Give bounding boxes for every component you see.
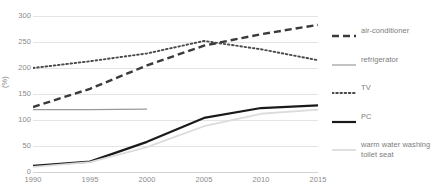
legend-item[interactable]: air-conditioner (332, 26, 437, 37)
x-tick-label: 1995 (81, 176, 98, 184)
y-axis-ticks: 300250200150100500 (0, 0, 31, 196)
legend-item[interactable]: TV (332, 83, 437, 94)
legend-item[interactable]: refrigerator (332, 55, 437, 66)
legend-line-icon (332, 113, 356, 123)
series-line (33, 110, 318, 167)
legend-label: refrigerator (361, 55, 398, 65)
x-axis-ticks: 199019952000200520102015 (33, 176, 318, 190)
legend-line-icon (332, 27, 356, 37)
legend-label: PC (361, 112, 372, 122)
x-tick-label: 2000 (138, 176, 155, 184)
legend-item[interactable]: warm water washing toilet seat (332, 140, 437, 160)
x-tick-label: 2010 (252, 176, 269, 184)
x-tick-label: 2015 (309, 176, 326, 184)
series-line (33, 105, 318, 165)
x-axis-line (33, 172, 318, 173)
line-chart: 300250200150100500 (%) 19901995200020052… (0, 0, 437, 196)
y-tick-label: 50 (5, 142, 31, 150)
legend-line-icon (332, 56, 356, 66)
legend-line-icon (332, 141, 356, 151)
y-tick-label: 250 (5, 38, 31, 46)
series-line (33, 109, 147, 110)
y-tick-label: 150 (5, 90, 31, 98)
x-tick-label: 1990 (24, 176, 41, 184)
legend-label: warm water washing toilet seat (361, 140, 437, 160)
series-line (33, 25, 318, 107)
legend-line-icon (332, 84, 356, 94)
y-axis-title: (%) (1, 76, 9, 88)
series-lines (33, 16, 318, 172)
legend-label: air-conditioner (361, 26, 409, 36)
series-line (33, 41, 318, 68)
legend-label: TV (361, 83, 371, 93)
y-tick-label: 100 (5, 116, 31, 124)
chart-legend: air-conditionerrefrigeratorTVPCwarm wate… (332, 26, 437, 177)
y-tick-label: 200 (5, 64, 31, 72)
y-tick-label: 300 (5, 12, 31, 20)
legend-item[interactable]: PC (332, 112, 437, 123)
x-tick-label: 2005 (195, 176, 212, 184)
plot-area (33, 16, 318, 172)
